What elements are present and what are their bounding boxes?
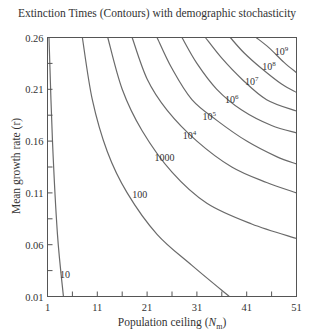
x-axis-label: Population ceiling (Nm): [47, 316, 297, 331]
contour-label: 109: [275, 45, 289, 57]
contour-plot: 101001000104105106107108109 11121314151 …: [0, 0, 314, 334]
contour-label: 1000: [155, 152, 175, 163]
contour-label: 106: [225, 93, 239, 105]
y-tick-label: 0.26: [25, 33, 43, 44]
contour-label: 105: [203, 110, 217, 122]
x-axis-label-text: Population ceiling (: [118, 316, 209, 328]
contour-label: 108: [262, 60, 276, 72]
x-tick-label: 31: [192, 302, 203, 313]
x-tick-label: 11: [92, 302, 102, 313]
contour-labels: 101001000104105106107108109: [60, 45, 289, 280]
y-tick-label: 0.06: [25, 240, 43, 251]
y-tick-label: 0.21: [25, 84, 43, 95]
y-tick-label: 0.16: [25, 136, 43, 147]
x-axis: 11121314151: [45, 292, 302, 313]
x-tick-label: 51: [291, 302, 302, 313]
contour-label: 10: [60, 269, 70, 280]
contour-label: 100: [132, 189, 147, 200]
y-tick-label: 0.11: [26, 188, 44, 199]
x-tick-label: 1: [45, 302, 50, 313]
plot-frame: [48, 38, 297, 297]
contour-label: 107: [245, 75, 259, 87]
y-tick-label: 0.01: [25, 292, 43, 303]
y-axis: 0.010.060.110.160.210.26: [25, 33, 52, 303]
x-axis-label-var: N: [208, 316, 216, 328]
x-tick-label: 21: [142, 302, 153, 313]
x-tick-label: 41: [241, 302, 252, 313]
y-axis-label: Mean growth rate (r): [10, 86, 22, 246]
contour-lines: [49, 38, 297, 297]
x-axis-label-close: ): [222, 316, 226, 328]
contour-line: [82, 38, 229, 297]
